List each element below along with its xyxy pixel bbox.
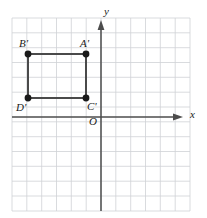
coordinate-plane-figure: y x O B' A' C' D' [0,0,207,218]
rectangle-outline [28,54,86,98]
vertex-markers [25,51,90,102]
rectangle-shape [28,54,86,98]
x-axis-arrowhead [173,113,183,120]
vertex-label-b: B' [19,38,28,49]
vertex-label-c: C' [87,101,97,112]
vertex-label-a: A' [80,38,89,49]
y-axis-arrowhead [98,20,105,30]
x-axis-label: x [190,109,195,120]
origin-label: O [89,116,97,127]
graph-svg [0,0,207,218]
axes [12,20,183,211]
vertex-point-a [83,51,90,58]
vertex-point-b [25,51,32,58]
y-axis-label: y [104,6,109,17]
vertex-label-d: D' [16,102,26,113]
